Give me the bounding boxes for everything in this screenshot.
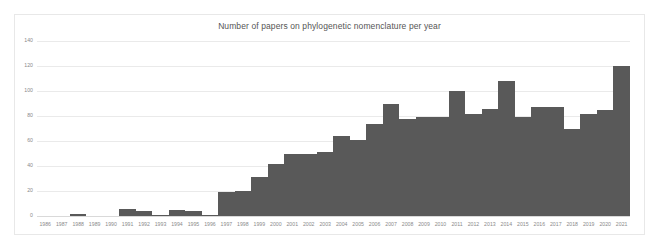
x-axis-tick-label: 2007 xyxy=(383,222,399,227)
bar-slot xyxy=(268,41,284,216)
chart-card: Number of papers on phylogenetic nomencl… xyxy=(14,14,645,235)
bar-2008 xyxy=(399,119,415,217)
bar-2005 xyxy=(350,140,366,216)
x-axis-tick-label: 2010 xyxy=(432,222,448,227)
x-axis-tick-labels: 1986198719881989199019911992199319941995… xyxy=(37,222,630,227)
x-axis-tick-label: 1999 xyxy=(251,222,267,227)
x-axis-tick-label: 1995 xyxy=(185,222,201,227)
bar-2015 xyxy=(515,117,531,216)
bar-slot xyxy=(432,41,448,216)
bar-2001 xyxy=(284,154,300,217)
bar-2021 xyxy=(613,66,629,216)
bar-2019 xyxy=(580,114,596,217)
x-axis-tick-label: 2020 xyxy=(597,222,613,227)
x-axis-tick-label: 1993 xyxy=(152,222,168,227)
x-axis-tick-label: 1992 xyxy=(136,222,152,227)
bar-2002 xyxy=(301,154,317,217)
bar-slot xyxy=(449,41,465,216)
bar-2000 xyxy=(268,164,284,217)
bar-1993 xyxy=(152,215,168,216)
bar-1995 xyxy=(185,211,201,216)
x-axis-tick-label: 2016 xyxy=(531,222,547,227)
bar-slot xyxy=(465,41,481,216)
bar-slot xyxy=(416,41,432,216)
bar-slot xyxy=(613,41,629,216)
x-axis-tick-label: 2001 xyxy=(284,222,300,227)
bar-slot xyxy=(531,41,547,216)
plot-area: 020406080100120140 xyxy=(37,41,630,216)
bar-slot xyxy=(580,41,596,216)
y-axis-tick-label: 60 xyxy=(27,138,33,143)
x-axis-tick-label: 2002 xyxy=(301,222,317,227)
y-axis-tick-label: 100 xyxy=(24,88,33,93)
x-axis-tick-label: 2006 xyxy=(366,222,382,227)
bar-slot xyxy=(564,41,580,216)
bar-slot xyxy=(152,41,168,216)
bar-slot xyxy=(498,41,514,216)
bar-2004 xyxy=(333,136,349,216)
bar-2012 xyxy=(465,114,481,217)
bar-slot xyxy=(136,41,152,216)
x-axis-tick-label: 2009 xyxy=(416,222,432,227)
bar-slot xyxy=(366,41,382,216)
bar-slot xyxy=(515,41,531,216)
x-axis-tick-label: 2018 xyxy=(564,222,580,227)
x-axis-tick-label: 2012 xyxy=(465,222,481,227)
bar-1996 xyxy=(202,215,218,216)
bar-slot xyxy=(218,41,234,216)
bar-slot xyxy=(399,41,415,216)
x-axis-tick-label: 2008 xyxy=(399,222,415,227)
bar-slot xyxy=(548,41,564,216)
x-axis-tick-label: 2014 xyxy=(498,222,514,227)
bar-2018 xyxy=(564,129,580,217)
x-axis-tick-label: 2021 xyxy=(613,222,629,227)
chart-title: Number of papers on phylogenetic nomencl… xyxy=(15,21,644,31)
x-axis-tick-label: 1997 xyxy=(218,222,234,227)
x-axis-tick-label: 1990 xyxy=(103,222,119,227)
x-axis-tick-label: 2005 xyxy=(350,222,366,227)
bar-slot xyxy=(169,41,185,216)
bar-2003 xyxy=(317,152,333,216)
x-axis-tick-label: 1989 xyxy=(86,222,102,227)
x-axis-tick-label: 1998 xyxy=(235,222,251,227)
y-axis-tick-label: 120 xyxy=(24,63,33,68)
bar-2020 xyxy=(597,110,613,216)
y-axis-tick-label: 0 xyxy=(30,213,33,218)
x-axis-tick-label: 1986 xyxy=(37,222,53,227)
bar-slot xyxy=(235,41,251,216)
x-axis-tick-label: 1996 xyxy=(202,222,218,227)
bar-slot xyxy=(482,41,498,216)
bar-2010 xyxy=(432,117,448,216)
bar-1998 xyxy=(235,191,251,216)
x-axis-tick-label: 1987 xyxy=(53,222,69,227)
bar-slot xyxy=(284,41,300,216)
x-axis-tick-label: 2000 xyxy=(268,222,284,227)
bar-slot xyxy=(317,41,333,216)
bar-2016 xyxy=(531,107,547,216)
x-axis-tick-label: 2017 xyxy=(548,222,564,227)
x-axis-tick-label: 2011 xyxy=(449,222,465,227)
bar-slot xyxy=(597,41,613,216)
bar-slot xyxy=(333,41,349,216)
bar-2011 xyxy=(449,91,465,216)
gridline-0 xyxy=(37,216,630,217)
x-axis-tick-label: 1988 xyxy=(70,222,86,227)
bar-slot xyxy=(202,41,218,216)
bar-1997 xyxy=(218,192,234,216)
x-axis-tick-label: 2004 xyxy=(333,222,349,227)
bar-1994 xyxy=(169,210,185,216)
bar-slot xyxy=(301,41,317,216)
x-axis-tick-label: 1991 xyxy=(119,222,135,227)
bar-2014 xyxy=(498,81,514,216)
x-axis-tick-label: 2013 xyxy=(482,222,498,227)
y-axis-tick-label: 140 xyxy=(24,38,33,43)
bar-slot xyxy=(103,41,119,216)
bar-slot xyxy=(119,41,135,216)
y-axis-tick-label: 40 xyxy=(27,163,33,168)
bar-2017 xyxy=(548,107,564,216)
bar-2009 xyxy=(416,117,432,216)
x-axis-tick-label: 1994 xyxy=(169,222,185,227)
bar-slot xyxy=(37,41,53,216)
bar-2006 xyxy=(366,124,382,217)
bar-slot xyxy=(70,41,86,216)
